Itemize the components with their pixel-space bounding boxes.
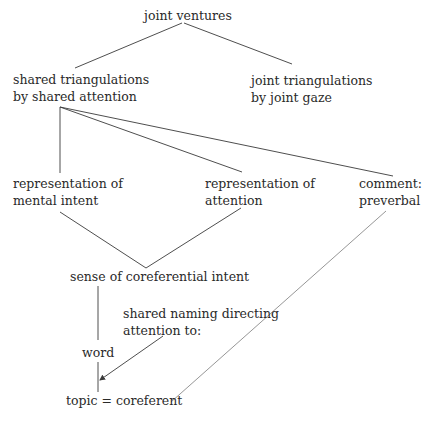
node-text: attention xyxy=(205,192,315,209)
node-text: shared naming directing xyxy=(123,305,279,322)
node-comment: comment: preverbal xyxy=(359,175,422,209)
node-shared-naming: shared naming directing attention to: xyxy=(123,305,279,339)
node-text: representation of xyxy=(13,175,123,192)
node-text: preverbal xyxy=(359,192,422,209)
node-shared-triangulations: shared triangulations by shared attentio… xyxy=(13,71,149,105)
node-text: joint ventures xyxy=(144,7,232,24)
edge-shared-comment xyxy=(60,107,393,176)
tree-diagram: joint ventures shared triangulations by … xyxy=(0,0,428,421)
node-word: word xyxy=(82,344,114,361)
node-text: attention to: xyxy=(123,322,279,339)
node-joint-triangulations: joint triangulations by joint gaze xyxy=(251,72,372,106)
edge-ventures-joint xyxy=(184,23,292,64)
edge-attention-sense xyxy=(146,208,241,268)
node-text: mental intent xyxy=(13,192,123,209)
node-text: representation of xyxy=(205,175,315,192)
node-text: sense of coreferential intent xyxy=(70,268,249,285)
node-text: topic = coreferent xyxy=(66,392,182,409)
edge-ventures-shared xyxy=(75,23,182,68)
node-text: comment: xyxy=(359,175,422,192)
node-sense-coreferential: sense of coreferential intent xyxy=(70,268,249,285)
node-joint-ventures: joint ventures xyxy=(144,7,232,24)
diagram-edges xyxy=(0,0,428,421)
node-text: by shared attention xyxy=(13,88,149,105)
node-rep-mental-intent: representation of mental intent xyxy=(13,175,123,209)
node-text: by joint gaze xyxy=(251,89,372,106)
node-topic: topic = coreferent xyxy=(66,392,182,409)
edge-mental-sense xyxy=(60,212,146,268)
node-rep-attention: representation of attention xyxy=(205,175,315,209)
node-text: joint triangulations xyxy=(251,72,372,89)
node-text: word xyxy=(82,344,114,361)
node-text: shared triangulations xyxy=(13,71,149,88)
